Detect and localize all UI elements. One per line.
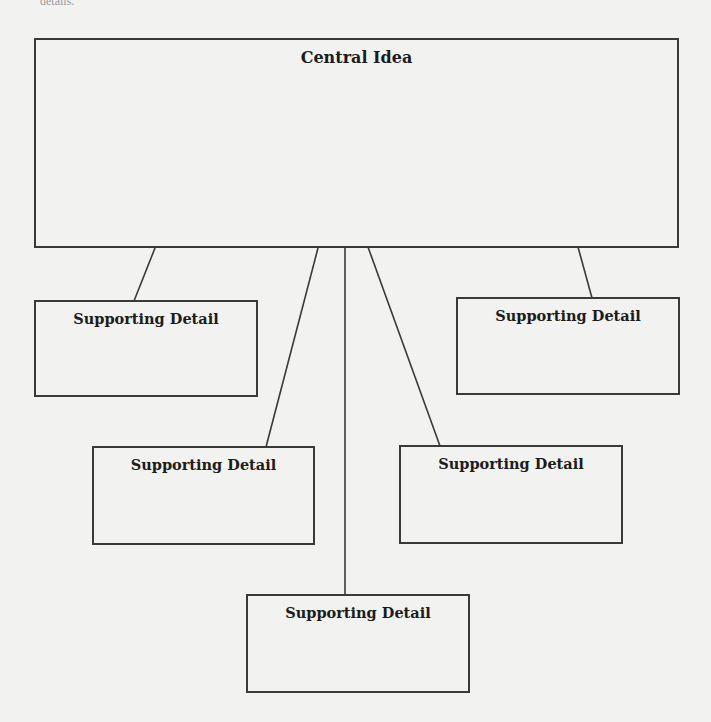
header-text-fragment: details.	[40, 0, 74, 9]
connector-line-4	[368, 247, 440, 446]
supporting-detail-label-1: Supporting Detail	[36, 310, 256, 327]
supporting-detail-label-3: Supporting Detail	[94, 456, 313, 473]
supporting-detail-box-5: Supporting Detail	[246, 594, 470, 693]
connector-line-1	[134, 248, 155, 301]
connector-line-2	[578, 247, 592, 298]
supporting-detail-label-2: Supporting Detail	[458, 307, 678, 324]
supporting-detail-label-4: Supporting Detail	[401, 455, 621, 472]
supporting-detail-box-4: Supporting Detail	[399, 445, 623, 544]
supporting-detail-label-5: Supporting Detail	[248, 604, 468, 621]
connector-line-3	[266, 248, 318, 447]
supporting-detail-box-1: Supporting Detail	[34, 300, 258, 397]
supporting-detail-box-3: Supporting Detail	[92, 446, 315, 545]
supporting-detail-box-2: Supporting Detail	[456, 297, 680, 395]
diagram-canvas: details. Central Idea Supporting Detail …	[0, 0, 711, 722]
central-idea-box: Central Idea	[34, 38, 679, 248]
central-idea-label: Central Idea	[36, 48, 677, 67]
